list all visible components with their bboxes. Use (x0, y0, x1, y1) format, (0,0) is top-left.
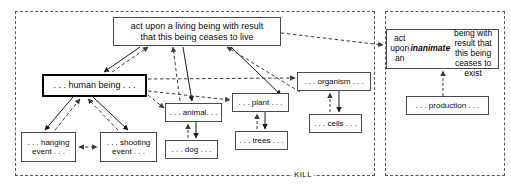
edge-animal-to-actliving (173, 47, 180, 101)
node-inanimate-keyword: inanimate (410, 44, 450, 54)
edge-actliving-to-actinanimate (281, 33, 383, 45)
edge-shooting-to-human (88, 99, 118, 130)
node-human-being[interactable]: . . . human being . . . (42, 74, 147, 97)
node-inanimate-text-post: being with result that this being ceases… (450, 20, 496, 79)
node-act-upon-living-being[interactable]: act upon a living being with result that… (113, 17, 281, 46)
edge-human-to-shooting (93, 97, 128, 130)
node-production[interactable]: . . . production . . . (406, 96, 489, 115)
node-inanimate-text-pre: act upon an (389, 34, 410, 63)
edge-actliving-to-animal (183, 47, 192, 101)
node-plant[interactable]: . . . plant . . . (232, 93, 289, 112)
node-organism[interactable]: . . . organism . . . (297, 72, 371, 91)
node-animal[interactable]: . . . animal. . . (165, 103, 222, 122)
node-dog[interactable]: . . . dog . . . (165, 140, 218, 159)
diagram-canvas: KILL (0, 0, 511, 190)
edge-human-to-animal (148, 95, 164, 108)
edge-human-to-actliving (112, 47, 148, 72)
edge-human-to-organism (148, 78, 295, 79)
edge-actliving-to-human (104, 47, 140, 72)
node-cells[interactable]: . . . cells . . . (309, 114, 362, 133)
edge-organism-to-actliving (227, 47, 300, 92)
node-shooting-event[interactable]: . . . shooting event . . . (100, 132, 157, 162)
edge-human-to-plant (148, 91, 230, 100)
node-trees[interactable]: . . . trees . . . (235, 131, 288, 150)
node-hanging-event[interactable]: . . . hanging event . . . (21, 132, 76, 162)
node-act-upon-inanimate-being[interactable]: act upon an inanimate being with result … (386, 29, 499, 69)
